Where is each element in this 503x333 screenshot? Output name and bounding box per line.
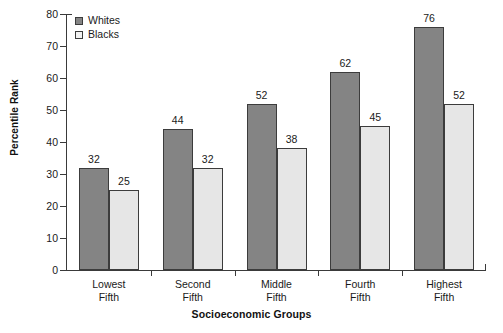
bar-value-label: 45 — [360, 112, 390, 123]
plot-area: 32254432523862457652 — [67, 14, 486, 270]
bar-value-label: 38 — [277, 134, 307, 145]
x-tick-mark — [318, 270, 319, 276]
bar-whites-highest-fifth[interactable] — [414, 27, 444, 270]
legend-item-whites[interactable]: Whites — [75, 14, 120, 27]
bar-group: 7652 — [414, 14, 474, 270]
bar-whites-middle-fifth[interactable] — [247, 104, 277, 270]
bar-chart: 01020304050607080 Percentile Rank 322544… — [0, 0, 503, 333]
legend-label: Whites — [88, 15, 120, 26]
y-tick-mark — [60, 238, 66, 239]
bar-value-label: 52 — [444, 90, 474, 101]
y-tick-label: 80 — [4, 9, 58, 19]
bar-group: 5238 — [247, 14, 307, 270]
y-tick-label: 70 — [4, 41, 58, 51]
x-category-label: FourthFifth — [318, 278, 402, 303]
y-axis-title: Percentile Rank — [9, 58, 20, 178]
bar-value-label: 52 — [247, 90, 277, 101]
bar-blacks-lowest-fifth[interactable] — [109, 190, 139, 270]
x-axis-line — [66, 270, 486, 271]
bar-value-label: 25 — [109, 176, 139, 187]
y-tick-mark — [60, 14, 66, 15]
legend-label: Blacks — [88, 29, 119, 40]
bar-whites-second-fifth[interactable] — [163, 129, 193, 270]
bar-whites-fourth-fifth[interactable] — [330, 72, 360, 270]
bar-group: 3225 — [79, 14, 139, 270]
bar-value-label: 76 — [414, 13, 444, 24]
y-tick-label: 10 — [4, 233, 58, 243]
bar-value-label: 44 — [163, 115, 193, 126]
y-tick-mark — [60, 78, 66, 79]
bar-value-label: 32 — [193, 154, 223, 165]
y-tick-label: 0 — [4, 265, 58, 275]
bar-blacks-highest-fifth[interactable] — [444, 104, 474, 270]
bar-group: 6245 — [330, 14, 390, 270]
x-category-label: HighestFifth — [402, 278, 486, 303]
bar-blacks-second-fifth[interactable] — [193, 168, 223, 270]
chart-legend: WhitesBlacks — [75, 14, 120, 42]
y-tick-mark — [60, 110, 66, 111]
x-tick-mark — [235, 270, 236, 276]
x-tick-mark — [402, 270, 403, 276]
y-tick-mark — [60, 174, 66, 175]
x-axis-title: Socioeconomic Groups — [0, 308, 503, 320]
bar-value-label: 62 — [330, 58, 360, 69]
x-category-label: SecondFifth — [151, 278, 235, 303]
y-tick-mark — [60, 270, 66, 271]
y-tick-mark — [60, 46, 66, 47]
y-tick-mark — [60, 206, 66, 207]
bar-group: 4432 — [163, 14, 223, 270]
x-tick-mark — [151, 270, 152, 276]
legend-item-blacks[interactable]: Blacks — [75, 28, 120, 41]
bar-blacks-middle-fifth[interactable] — [277, 148, 307, 270]
x-category-label: LowestFifth — [67, 278, 151, 303]
blacks-swatch — [75, 31, 83, 39]
x-category-label: MiddleFifth — [235, 278, 319, 303]
whites-swatch — [75, 17, 83, 25]
y-tick-mark — [60, 142, 66, 143]
bar-whites-lowest-fifth[interactable] — [79, 168, 109, 270]
y-tick-label: 20 — [4, 201, 58, 211]
bar-value-label: 32 — [79, 154, 109, 165]
bar-blacks-fourth-fifth[interactable] — [360, 126, 390, 270]
